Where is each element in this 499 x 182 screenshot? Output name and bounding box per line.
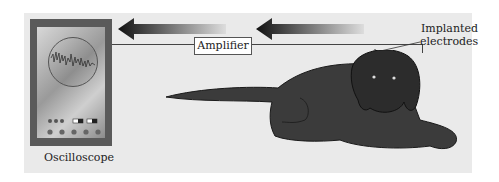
oscilloscope	[30, 19, 112, 146]
oscilloscope-label: Oscilloscope	[44, 151, 114, 164]
signal-arrow-right-icon	[256, 18, 366, 40]
oscilloscope-face	[37, 27, 105, 138]
wire-scope-amp	[112, 44, 194, 45]
dog-illustration	[160, 50, 460, 160]
electrodes-label-line2: electrodes	[420, 35, 478, 48]
control-knobs-icon	[37, 27, 105, 138]
electrodes-label-line1: Implanted	[421, 22, 478, 35]
